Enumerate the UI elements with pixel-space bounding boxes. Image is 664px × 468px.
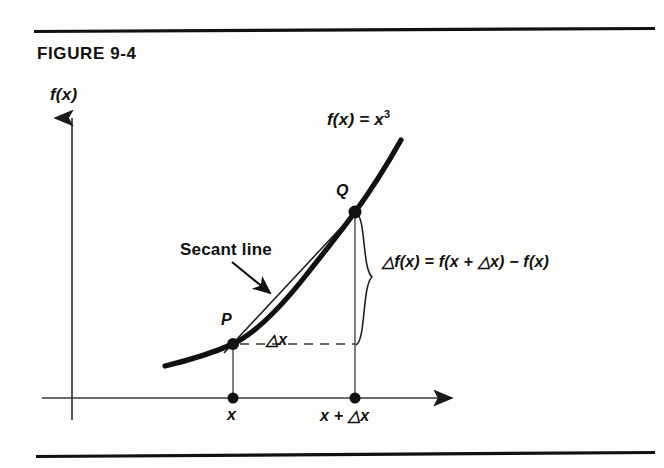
point-p-marker (227, 338, 239, 350)
delta-x-label: △x (266, 330, 287, 349)
figure-graphic (0, 0, 664, 468)
curve-equation-exponent: 3 (384, 108, 390, 120)
x-axis-tick-dot-x (228, 393, 239, 404)
delta-f-equation-label: △f(x) = f(x + △x) − f(x) (382, 252, 549, 271)
delta-f-brace (356, 213, 372, 345)
top-rule (34, 29, 655, 32)
x-axis-tick-label-x-plus-delta-x: x + △x (320, 406, 369, 425)
x-axis-tick-label-x: x (227, 406, 236, 424)
curve-equation-base: f(x) = x (327, 110, 384, 129)
secant-line (224, 203, 364, 353)
y-axis-label: f(x) (50, 85, 77, 105)
x-axis-tick-dot-x-plus-dx (350, 393, 361, 404)
point-q-label: Q (336, 182, 349, 200)
figure-container: FIGURE 9-4 f(x) f(x) = x3 Secant line P … (0, 0, 664, 468)
point-p-label: P (221, 311, 232, 329)
curve-equation-label: f(x) = x3 (327, 108, 390, 130)
point-q-marker (349, 206, 362, 219)
secant-line-label: Secant line (180, 240, 272, 260)
bottom-rule (36, 453, 655, 457)
figure-number-label: FIGURE 9-4 (37, 44, 137, 64)
secant-label-pointer-icon (232, 262, 270, 293)
